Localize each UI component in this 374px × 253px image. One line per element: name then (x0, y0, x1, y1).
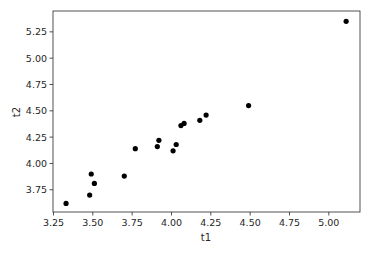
data-point (181, 121, 186, 126)
data-point (155, 144, 160, 149)
data-point (92, 181, 97, 186)
y-axis-label: t2 (11, 107, 22, 117)
data-point (122, 173, 127, 178)
data-point (63, 201, 68, 206)
y-tick-label: 3.75 (26, 184, 47, 195)
data-point (133, 146, 138, 151)
data-point (170, 148, 175, 153)
x-axis-label: t1 (201, 232, 211, 243)
data-point (156, 138, 161, 143)
y-tick-label: 4.25 (26, 132, 47, 143)
y-tick-label: 5.25 (26, 26, 47, 37)
scatter-chart: 3.253.503.754.004.254.504.755.00 3.754.0… (0, 0, 374, 253)
x-tick-label: 3.75 (122, 217, 143, 228)
y-tick-label: 4.00 (26, 158, 47, 169)
x-tick-label: 3.25 (43, 217, 64, 228)
x-tick-label: 5.00 (318, 217, 339, 228)
x-tick-label: 3.50 (82, 217, 103, 228)
data-point (87, 192, 92, 197)
x-tick-label: 4.50 (240, 217, 261, 228)
data-point (174, 142, 179, 147)
y-tick-label: 4.50 (26, 105, 47, 116)
x-tick-label: 4.75 (279, 217, 300, 228)
chart-background (0, 0, 374, 253)
data-point (246, 103, 251, 108)
data-point (197, 118, 202, 123)
y-tick-label: 4.75 (26, 79, 47, 90)
data-point (89, 171, 94, 176)
x-tick-label: 4.00 (161, 217, 182, 228)
x-tick-label: 4.25 (200, 217, 221, 228)
data-point (204, 112, 209, 117)
data-point (344, 19, 349, 24)
y-tick-label: 5.00 (26, 53, 47, 64)
